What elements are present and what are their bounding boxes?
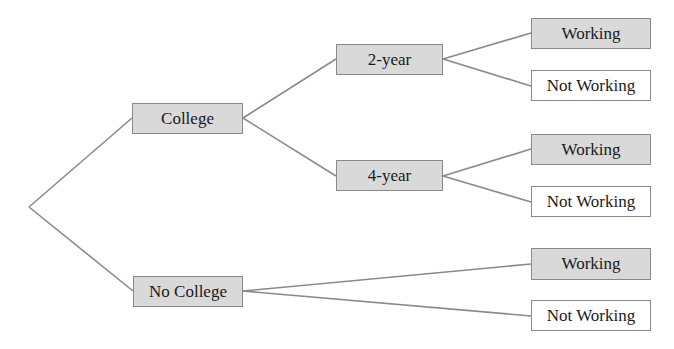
edge-2year-working bbox=[443, 33, 531, 59]
node-4-year: 4-year bbox=[336, 160, 443, 191]
leaf-2year-not-working: Not Working bbox=[531, 70, 651, 101]
node-college: College bbox=[132, 103, 243, 134]
edge-4year-not-working bbox=[443, 176, 531, 202]
leaf-nocollege-not-working: Not Working bbox=[531, 300, 651, 331]
edge-2year-not-working bbox=[443, 59, 531, 86]
edge-nocollege-working bbox=[243, 264, 531, 291]
leaf-2year-working: Working bbox=[531, 18, 651, 49]
node-2-year: 2-year bbox=[336, 44, 443, 75]
leaf-4year-working: Working bbox=[531, 134, 651, 165]
edge-college-2year bbox=[243, 59, 336, 118]
edge-college-4year bbox=[243, 118, 336, 176]
leaf-4year-not-working: Not Working bbox=[531, 186, 651, 217]
node-no-college: No College bbox=[133, 276, 243, 307]
edge-root-no-college bbox=[29, 207, 133, 291]
edge-4year-working bbox=[443, 149, 531, 176]
leaf-nocollege-working: Working bbox=[531, 248, 651, 280]
edge-root-college bbox=[29, 118, 132, 207]
edge-nocollege-not-working bbox=[243, 291, 531, 316]
